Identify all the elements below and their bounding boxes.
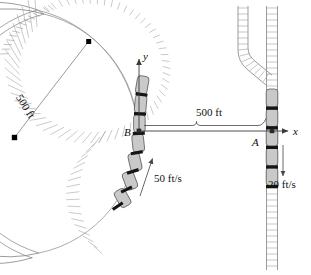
siding-track-ties (238, 8, 269, 82)
curved-track-upper (37, 10, 138, 253)
dimension-brace (144, 119, 266, 126)
point-b-label: B (124, 126, 131, 138)
diagram-svg (0, 0, 311, 275)
point-b-marker (137, 129, 142, 134)
curved-track-rails (0, 2, 44, 263)
curved-track-lower-ties (66, 131, 105, 254)
curve-edge-marker (86, 39, 91, 44)
velocity-a-label: 20 ft/s (268, 178, 296, 190)
figure-canvas: 500 ft 500 ft 50 ft/s 20 ft/s B A x y (0, 0, 311, 275)
point-a-label: A (252, 136, 259, 148)
axis-x-label: x (293, 125, 298, 137)
separation-label: 500 ft (196, 106, 222, 118)
train-a (266, 89, 278, 188)
point-a-marker (270, 129, 275, 134)
curve-center-marker (12, 135, 17, 140)
radius-line (12, 39, 91, 140)
velocity-b-label: 50 ft/s (154, 172, 182, 184)
velocity-arrow-b (140, 159, 153, 197)
axis-y-label: y (143, 50, 148, 62)
